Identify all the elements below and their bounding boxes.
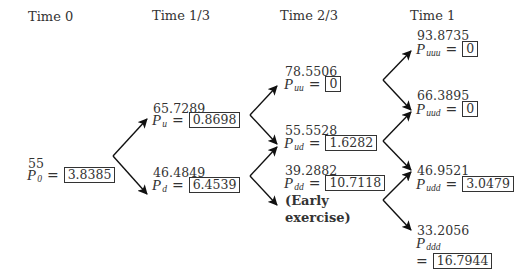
equals-sign: = [172,178,184,193]
node-uud-option: Puud = 0 [416,101,478,117]
node-ud-option: Pud = 1.6282 [284,135,377,151]
option-symbol: P [416,236,425,251]
node-ddd-option-value: = 16.7944 [416,253,492,269]
arrow-uu-to-uuu [383,51,411,80]
node-uuu-option: Puuu = 0 [416,41,478,57]
option-value-box: 6.4539 [189,177,241,193]
option-value-box: 0 [325,76,341,92]
equals-sign: = [309,136,321,151]
node-udd-option: Pudd = 3.0479 [416,176,514,192]
option-symbol: P [152,113,161,128]
option-value-box: 0 [462,101,478,117]
option-symbol: P [27,168,36,183]
option-subscript: u [162,117,167,132]
arrow-dd-to-ddd [383,200,411,230]
arrow-d-to-ud [250,147,277,176]
node-dd-option: Pdd = 10.7118 [284,175,385,191]
option-subscript: udd [426,181,440,196]
option-symbol: P [416,102,425,117]
option-subscript: 0 [37,172,42,187]
arrow-0-to-u [113,119,147,156]
option-subscript: ud [294,140,304,155]
equals-sign: = [445,102,457,117]
arrow-ud-to-udd [383,141,411,170]
option-value-box: 0.8698 [189,112,241,128]
option-subscript: uud [426,106,440,121]
option-value-box: 10.7118 [325,175,385,191]
option-symbol: P [284,176,293,191]
option-value-box: 16.7944 [433,253,493,269]
node-uu-option: Puu = 0 [284,76,341,92]
equals-sign: = [172,113,184,128]
option-symbol: P [416,177,425,192]
option-symbol: P [284,77,293,92]
early-exercise-note-line2: exercise) [285,209,351,226]
option-value-box: 0 [462,41,478,57]
arrow-0-to-d [113,156,147,194]
option-symbol: P [416,42,425,57]
early-exercise-note-line1: (Early [285,192,329,209]
option-value-box: 1.6282 [325,135,377,151]
node-u-option: Pu = 0.8698 [152,112,240,128]
equals-sign: = [47,168,59,183]
option-subscript: uu [294,81,304,96]
node-0-option: P0 = 3.8385 [27,167,115,183]
node-d-option: Pd = 6.4539 [152,177,240,193]
equals-sign: = [309,77,321,92]
option-subscript: uuu [426,46,440,61]
arrow-ud-to-uud [383,112,411,141]
option-subscript: d [162,182,167,197]
option-symbol: P [152,178,161,193]
option-value-box: 3.8385 [64,167,116,183]
equals-sign: = [416,254,428,269]
equals-sign: = [309,176,321,191]
arrow-dd-to-udd [383,172,411,200]
option-value-box: 3.0479 [462,176,514,192]
option-symbol: P [284,136,293,151]
equals-sign: = [445,42,457,57]
arrow-uu-to-uud [383,80,411,110]
node-ddd-option-label: Pddd [416,236,440,251]
equals-sign: = [445,177,457,192]
arrow-d-to-dd [250,176,277,205]
arrow-u-to-ud [250,115,277,144]
arrow-u-to-uu [250,86,277,115]
